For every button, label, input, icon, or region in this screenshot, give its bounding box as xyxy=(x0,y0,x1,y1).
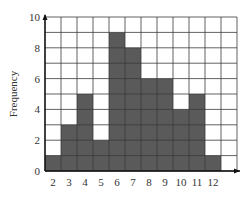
bar-6 xyxy=(109,32,125,171)
x-tick-8: 8 xyxy=(146,176,152,188)
x-tick-11: 11 xyxy=(192,176,203,188)
bars xyxy=(45,32,221,171)
y-tick-8: 8 xyxy=(35,42,41,54)
x-tick-2: 2 xyxy=(50,176,56,188)
x-tick-7: 7 xyxy=(130,176,136,188)
x-tick-5: 5 xyxy=(98,176,104,188)
bar-2 xyxy=(45,156,61,171)
y-tick-6: 6 xyxy=(35,73,41,85)
bar-12 xyxy=(205,156,221,171)
y-tick-0: 0 xyxy=(35,165,41,177)
x-tick-12: 12 xyxy=(208,176,219,188)
y-axis-label: Frequency xyxy=(7,70,19,117)
bar-4 xyxy=(77,94,93,171)
y-tick-labels: 0246810 xyxy=(29,11,41,177)
x-tick-6: 6 xyxy=(114,176,120,188)
x-tick-4: 4 xyxy=(82,176,88,188)
bar-11 xyxy=(189,94,205,171)
x-tick-10: 10 xyxy=(176,176,188,188)
x-tick-9: 9 xyxy=(162,176,168,188)
y-tick-10: 10 xyxy=(29,11,41,23)
y-tick-4: 4 xyxy=(35,103,41,115)
x-tick-labels: 23456789101112 xyxy=(50,176,218,188)
histogram-chart: 0246810 23456789101112 Frequency xyxy=(0,0,249,201)
bar-3 xyxy=(61,125,77,171)
x-tick-3: 3 xyxy=(66,176,72,188)
y-tick-2: 2 xyxy=(35,134,41,146)
